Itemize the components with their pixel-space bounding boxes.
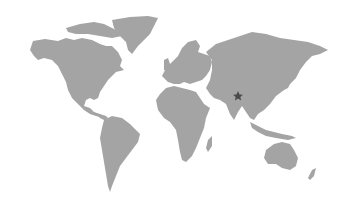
south-america xyxy=(100,116,140,192)
southeast-asia-islands xyxy=(250,122,296,140)
north-america xyxy=(30,38,124,120)
world-map xyxy=(0,0,349,209)
africa xyxy=(156,86,210,162)
europe xyxy=(162,40,212,84)
asia xyxy=(206,32,328,120)
new-zealand xyxy=(308,168,316,180)
madagascar xyxy=(206,136,212,152)
australia xyxy=(264,142,298,170)
